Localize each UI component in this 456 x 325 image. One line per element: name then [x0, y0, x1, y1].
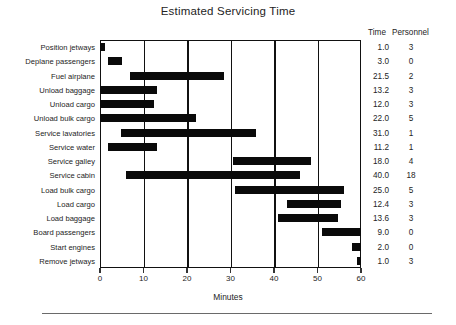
personnel-value: 2: [396, 71, 426, 80]
task-label: Remove jetways: [39, 256, 95, 265]
x-tick-label: 30: [216, 274, 246, 283]
gantt-bar: [130, 72, 224, 80]
x-tick-30: [230, 268, 231, 273]
personnel-value: 3: [396, 100, 426, 109]
table-row: Load baggage13.63: [0, 211, 456, 225]
time-value: 9.0: [365, 228, 389, 237]
table-row: Unload cargo12.03: [0, 97, 456, 111]
x-tick-label: 60: [346, 274, 376, 283]
time-value: 12.4: [365, 199, 389, 208]
gantt-bar: [357, 257, 361, 265]
personnel-value: 1: [396, 128, 426, 137]
gantt-bar: [108, 143, 157, 151]
personnel-value: 18: [396, 171, 426, 180]
task-label: Service cabin: [49, 171, 95, 180]
table-row: Service water11.21: [0, 140, 456, 154]
x-tick-label: 0: [85, 274, 115, 283]
table-row: Fuel airplane21.52: [0, 69, 456, 83]
x-tick-20: [186, 268, 187, 273]
time-value: 11.2: [365, 142, 389, 151]
time-value: 2.0: [365, 242, 389, 251]
time-value: 13.6: [365, 214, 389, 223]
gantt-bar: [322, 228, 361, 236]
gantt-chart-figure: Estimated Servicing Time Time Personnel …: [0, 0, 456, 325]
x-axis-label: Minutes: [0, 292, 456, 302]
gantt-bar: [235, 186, 344, 194]
time-value: 18.0: [365, 157, 389, 166]
personnel-value: 3: [396, 199, 426, 208]
table-row: Load cargo12.43: [0, 197, 456, 211]
personnel-value: 4: [396, 157, 426, 166]
gantt-bar: [352, 243, 361, 251]
personnel-value: 3: [396, 256, 426, 265]
table-row: Start engines2.00: [0, 240, 456, 254]
task-label: Load cargo: [57, 199, 95, 208]
personnel-value: 3: [396, 85, 426, 94]
x-tick-label: 10: [129, 274, 159, 283]
column-header-personnel: Personnel: [392, 28, 444, 37]
task-label: Start engines: [50, 242, 95, 251]
footer-rule: [42, 313, 432, 314]
gantt-bar: [100, 114, 196, 122]
gantt-bar: [100, 86, 157, 94]
time-value: 1.0: [365, 43, 389, 52]
personnel-value: 0: [396, 57, 426, 66]
x-tick-10: [143, 268, 144, 273]
gantt-bar: [126, 171, 300, 179]
x-tick-40: [273, 268, 274, 273]
task-label: Service lavatories: [35, 128, 95, 137]
gantt-bar: [278, 214, 337, 222]
table-row: Board passengers9.00: [0, 225, 456, 239]
gantt-bar: [100, 43, 105, 51]
task-label: Unload bulk cargo: [34, 114, 95, 123]
time-value: 22.0: [365, 114, 389, 123]
task-label: Unload baggage: [39, 85, 95, 94]
time-value: 25.0: [365, 185, 389, 194]
time-value: 40.0: [365, 171, 389, 180]
personnel-value: 0: [396, 228, 426, 237]
table-row: Service lavatories31.01: [0, 126, 456, 140]
table-row: Deplane passengers3.00: [0, 54, 456, 68]
chart-title: Estimated Servicing Time: [0, 5, 456, 17]
gantt-bar: [121, 129, 256, 137]
table-row: Service cabin40.018: [0, 168, 456, 182]
personnel-value: 5: [396, 185, 426, 194]
table-row: Unload baggage13.23: [0, 83, 456, 97]
x-tick-60: [360, 268, 361, 273]
gantt-bar: [233, 157, 311, 165]
task-label: Position jetways: [41, 43, 95, 52]
x-tick-0: [99, 268, 100, 273]
task-label: Fuel airplane: [51, 71, 95, 80]
personnel-value: 3: [396, 214, 426, 223]
task-label: Service water: [49, 142, 95, 151]
table-row: Position jetways1.03: [0, 40, 456, 54]
table-row: Unload bulk cargo22.05: [0, 111, 456, 125]
task-label: Unload cargo: [50, 100, 95, 109]
gantt-bar: [287, 200, 341, 208]
personnel-value: 3: [396, 43, 426, 52]
personnel-value: 0: [396, 242, 426, 251]
task-rows: Position jetways1.03Deplane passengers3.…: [0, 40, 456, 268]
table-row: Load bulk cargo25.05: [0, 183, 456, 197]
time-value: 21.5: [365, 71, 389, 80]
task-label: Load bulk cargo: [41, 185, 95, 194]
task-label: Deplane passengers: [25, 57, 95, 66]
personnel-value: 5: [396, 114, 426, 123]
x-tick-label: 40: [259, 274, 289, 283]
table-row: Remove jetways1.03: [0, 254, 456, 268]
task-label: Board passengers: [33, 228, 95, 237]
time-value: 31.0: [365, 128, 389, 137]
x-tick-label: 50: [303, 274, 333, 283]
time-value: 1.0: [365, 256, 389, 265]
task-label: Load baggage: [46, 214, 95, 223]
time-value: 3.0: [365, 57, 389, 66]
gantt-bar: [100, 100, 154, 108]
x-tick-50: [317, 268, 318, 273]
time-value: 13.2: [365, 85, 389, 94]
time-value: 12.0: [365, 100, 389, 109]
gantt-bar: [108, 57, 122, 65]
task-label: Service galley: [48, 157, 95, 166]
column-header-time: Time: [365, 28, 389, 37]
table-row: Service galley18.04: [0, 154, 456, 168]
personnel-value: 1: [396, 142, 426, 151]
